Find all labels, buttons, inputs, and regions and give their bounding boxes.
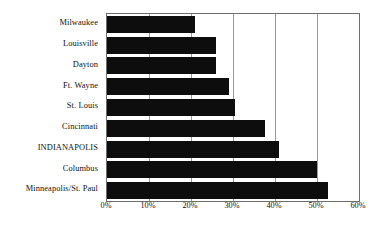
category-label: Cincinnati — [0, 117, 102, 138]
category-label: Columbus — [0, 158, 102, 179]
bar — [107, 37, 216, 54]
bar-chart: Milwaukee Louisville Dayton Ft. Wayne St… — [0, 0, 383, 233]
bar — [107, 182, 328, 199]
bar-series — [107, 14, 359, 201]
category-label: Ft. Wayne — [0, 75, 102, 96]
plot-area — [106, 13, 360, 202]
bar — [107, 78, 229, 95]
value-tick-label: 30% — [224, 202, 239, 210]
value-tick-label: 0% — [101, 202, 112, 210]
value-tick-label: 50% — [308, 202, 323, 210]
category-label: St. Louis — [0, 96, 102, 117]
value-tick-label: 20% — [182, 202, 197, 210]
category-label: Minneapolis/St. Paul — [0, 179, 102, 200]
bar-row — [107, 14, 359, 35]
value-tick-label: 40% — [266, 202, 281, 210]
bar — [107, 161, 317, 178]
category-label: Louisville — [0, 34, 102, 55]
bar — [107, 99, 235, 116]
bar-row — [107, 97, 359, 118]
bar — [107, 141, 279, 158]
bar-row — [107, 139, 359, 160]
bar — [107, 120, 265, 137]
value-axis: 0%10%20%30%40%50%60% — [106, 202, 358, 216]
bar — [107, 16, 195, 33]
category-label: INDIANAPOLIS — [0, 138, 102, 159]
bar-row — [107, 180, 359, 201]
bar — [107, 57, 216, 74]
bar-row — [107, 76, 359, 97]
bar-row — [107, 159, 359, 180]
category-label: Milwaukee — [0, 13, 102, 34]
category-label: Dayton — [0, 55, 102, 76]
bar-row — [107, 56, 359, 77]
category-axis: Milwaukee Louisville Dayton Ft. Wayne St… — [0, 13, 102, 200]
bar-row — [107, 35, 359, 56]
bar-row — [107, 118, 359, 139]
value-tick-label: 60% — [350, 202, 365, 210]
value-tick-label: 10% — [140, 202, 155, 210]
